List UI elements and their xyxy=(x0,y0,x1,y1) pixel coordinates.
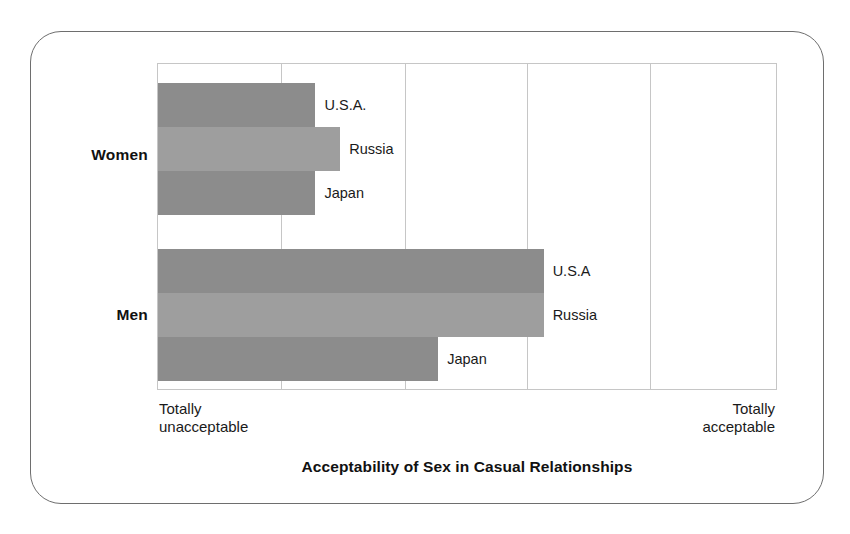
group-label-women: Women xyxy=(56,146,148,164)
axis-label-totally-unacceptable: Totally unacceptable xyxy=(159,400,248,437)
bar-label-women-russia: Russia xyxy=(340,127,393,171)
plot-area: U.S.A.RussiaJapanU.S.ARussiaJapan xyxy=(157,63,777,390)
bar-label-men-usa: U.S.A xyxy=(544,249,591,293)
bar-label-men-japan: Japan xyxy=(438,337,487,381)
bar-label-men-russia: Russia xyxy=(544,293,597,337)
axis-label-totally-acceptable: Totally acceptable xyxy=(640,400,775,437)
bar-women-japan xyxy=(158,171,315,215)
bar-label-women-usa: U.S.A. xyxy=(315,83,366,127)
bar-label-women-japan: Japan xyxy=(315,171,364,215)
gridline-x-4 xyxy=(650,64,651,389)
bar-women-usa xyxy=(158,83,315,127)
bar-women-russia xyxy=(158,127,340,171)
bar-men-russia xyxy=(158,293,544,337)
gridline-x-3 xyxy=(527,64,528,389)
chart-title: Acceptability of Sex in Casual Relations… xyxy=(157,458,777,476)
figure-canvas: Women Men U.S.A.RussiaJapanU.S.ARussiaJa… xyxy=(0,0,850,534)
group-label-men: Men xyxy=(56,306,148,324)
bar-men-japan xyxy=(158,337,438,381)
bar-men-usa xyxy=(158,249,544,293)
